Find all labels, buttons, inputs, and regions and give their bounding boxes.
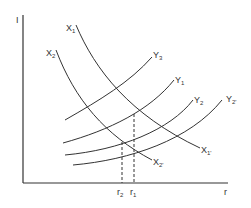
label-y2-prime: Y2' — [226, 94, 237, 105]
x-curves — [56, 25, 200, 160]
label-x2: X2 — [46, 48, 56, 59]
label-r2: r2 — [117, 187, 124, 198]
label-x1: X1 — [66, 23, 76, 34]
curve-labels: X1 X2 X1' X2' Y3 Y1 Y2 Y2' — [46, 23, 237, 168]
label-y2: Y2 — [194, 95, 204, 106]
x-axis-label: r — [224, 187, 227, 197]
curve-x1 — [76, 25, 200, 148]
label-r1: r1 — [130, 187, 137, 198]
diagram-canvas: I r X1 X2 X1' X2' Y3 Y1 Y2 Y2' r2 r1 — [0, 0, 251, 208]
label-x1-prime: X1' — [201, 145, 212, 156]
label-y1: Y1 — [175, 75, 185, 86]
y-axis-label: I — [16, 15, 19, 25]
marker-labels: r2 r1 — [117, 187, 137, 198]
label-x2-prime: X2' — [153, 157, 164, 168]
label-y3: Y3 — [153, 50, 163, 61]
y-curves — [63, 57, 222, 165]
curve-x2 — [56, 50, 152, 160]
